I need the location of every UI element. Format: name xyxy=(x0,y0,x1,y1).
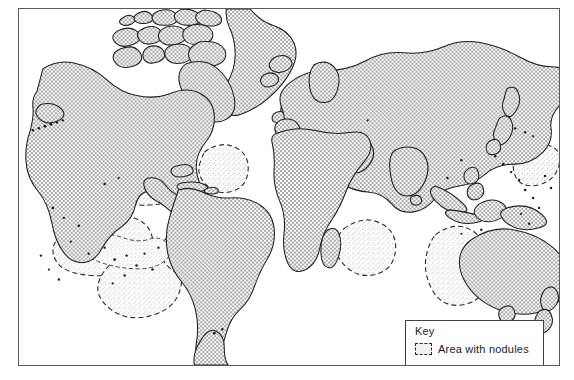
land-sri-lanka xyxy=(410,195,421,205)
land-canadian-arctic-archipelago xyxy=(113,9,226,67)
figure-root: Key Area with nodules xyxy=(0,0,574,380)
land-new-guinea xyxy=(501,206,547,230)
key-entry-area-with-nodules: Area with nodules xyxy=(415,343,543,355)
key-entry-label: Area with nodules xyxy=(438,343,529,355)
nodule-area-central-indian xyxy=(336,220,396,276)
land-madagascar xyxy=(321,228,341,267)
map-key: Key Area with nodules xyxy=(405,320,544,366)
land-scandinavia xyxy=(309,62,339,102)
dashed-area-swatch xyxy=(415,343,432,355)
map-frame: Key Area with nodules xyxy=(18,8,560,366)
world-map-svg xyxy=(19,9,559,365)
landmass-group xyxy=(26,9,559,365)
key-title: Key xyxy=(415,325,543,338)
